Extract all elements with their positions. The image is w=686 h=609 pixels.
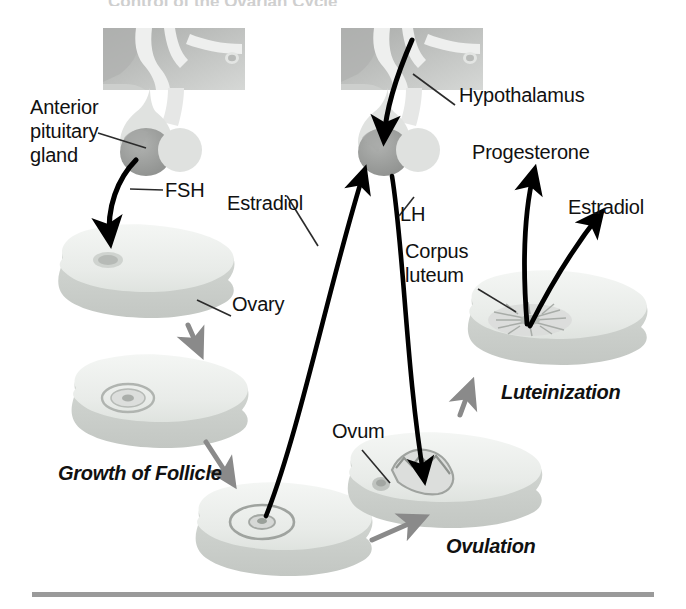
label-corpus-luteum-line2: luteum (405, 264, 464, 287)
label-growth-of-follicle: Growth of Follicle (58, 462, 222, 485)
label-corpus-luteum-line1: Corpus (405, 240, 468, 263)
label-hypothalamus: Hypothalamus (459, 84, 584, 107)
arrow-estradiol-feedback (266, 172, 364, 516)
brain-sagittal-left (103, 28, 245, 90)
label-anterior-pituitary-line2: pituitary (30, 120, 98, 143)
posterior-pituitary-right (396, 128, 440, 172)
ovary-primordial (58, 224, 234, 318)
label-ovary: Ovary (232, 293, 284, 316)
label-estradiol-left: Estradiol (227, 192, 303, 215)
arrow-progress-1 (188, 325, 200, 352)
ovarian-cycle-figure: Control of the Ovarian Cycle (0, 0, 686, 609)
label-progesterone: Progesterone (472, 141, 590, 164)
label-lh: LH (400, 203, 425, 226)
label-ovulation: Ovulation (446, 535, 536, 558)
figure-bottom-rule (32, 592, 654, 597)
label-fsh: FSH (165, 179, 204, 202)
ovary-mature-follicle (196, 482, 373, 576)
label-estradiol-right: Estradiol (568, 196, 644, 219)
label-anterior-pituitary-line1: Anterior (30, 96, 98, 119)
label-ovum: Ovum (332, 420, 385, 443)
ovary-growing-follicle (72, 354, 249, 448)
brain-sagittal-right (341, 28, 483, 90)
ovary-ovulating (348, 432, 543, 528)
leader-fsh (130, 189, 163, 190)
arrow-progress-4 (460, 385, 471, 415)
label-luteinization: Luteinization (501, 381, 620, 404)
posterior-pituitary-left (158, 128, 202, 172)
label-anterior-pituitary-line3: gland (30, 144, 78, 167)
ovary-corpus-luteum (468, 270, 648, 365)
